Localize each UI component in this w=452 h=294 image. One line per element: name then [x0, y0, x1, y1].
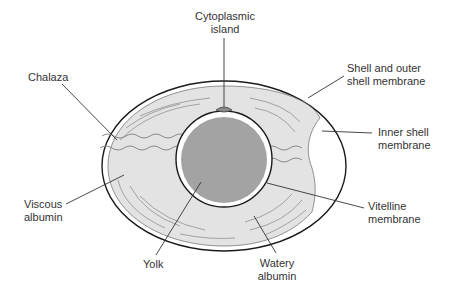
label-vitelline-membrane: Vitelline membrane — [368, 200, 421, 226]
label-cytoplasmic-island: Cytoplasmic island — [190, 10, 260, 36]
label-viscous-albumin: Viscous albumin — [24, 198, 63, 224]
label-chalaza: Chalaza — [28, 71, 68, 84]
label-shell-outer-membrane: Shell and outer shell membrane — [347, 62, 425, 88]
label-inner-shell-membrane: Inner shell membrane — [378, 126, 431, 152]
egg-diagram: Cytoplasmic island Shell and outer shell… — [0, 0, 452, 294]
yolk — [181, 117, 267, 203]
label-yolk: Yolk — [143, 258, 163, 271]
label-watery-albumin: Watery albumin — [252, 257, 302, 283]
